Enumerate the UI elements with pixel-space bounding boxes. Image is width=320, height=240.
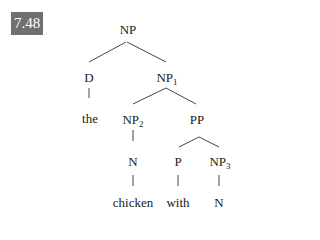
edge-np_root-d: [89, 42, 126, 62]
node-label: NP: [120, 22, 137, 37]
node-subscript: 2: [139, 119, 144, 129]
tree-node-np_root: NP: [120, 23, 137, 36]
tree-node-p: P: [174, 155, 181, 168]
node-label: N: [128, 154, 137, 169]
tree-node-chicken: chicken: [113, 196, 153, 209]
node-label: PP: [190, 112, 204, 127]
edge-pp-np3: [199, 137, 219, 147]
node-label: P: [174, 154, 181, 169]
edge-np1-pp: [166, 88, 196, 104]
tree-node-the: the: [82, 112, 98, 125]
tree-node-np2: NP2: [122, 113, 143, 126]
node-label: D: [84, 70, 93, 85]
node-label: NP: [122, 112, 139, 127]
tree-node-d: D: [84, 71, 93, 84]
node-label: chicken: [113, 195, 153, 210]
tree-node-n2: N: [214, 196, 223, 209]
node-label: with: [166, 195, 189, 210]
edge-np1-np2: [133, 88, 166, 104]
node-label: the: [82, 111, 98, 126]
node-label: NP: [156, 70, 173, 85]
node-subscript: 1: [173, 77, 178, 87]
node-subscript: 3: [226, 161, 231, 171]
tree-node-n1: N: [128, 155, 137, 168]
tree-node-with: with: [166, 196, 189, 209]
node-label: NP: [209, 154, 226, 169]
node-label: N: [214, 195, 223, 210]
tree-node-np1: NP1: [156, 71, 177, 84]
tree-node-np3: NP3: [209, 155, 230, 168]
edge-pp-p: [179, 137, 199, 147]
tree-node-pp: PP: [190, 113, 204, 126]
edge-np_root-np1: [127, 42, 166, 62]
